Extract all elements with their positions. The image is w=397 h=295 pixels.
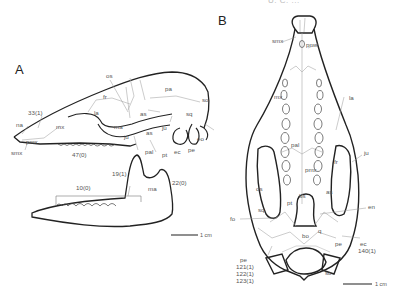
- label-B-sq: sq: [258, 207, 265, 213]
- character-10-bracket: [56, 186, 141, 206]
- label-A-na: na: [16, 122, 23, 128]
- label-B-bo: bo: [302, 233, 309, 239]
- lateral-skull-outline: [14, 72, 209, 146]
- label-A-smx: smx: [11, 150, 22, 156]
- skull-figure: U. C. ...: [0, 0, 397, 295]
- label-A-ju-small: ju: [162, 125, 167, 131]
- panel-label-B: B: [218, 14, 227, 27]
- label-B-so: so: [325, 270, 332, 276]
- skull-drawings: [0, 0, 397, 295]
- label-B-mx: mx: [274, 94, 282, 100]
- label-B-pal: pal: [291, 142, 299, 148]
- char-47: 47(0): [72, 152, 86, 158]
- label-B-sn: pmx: [305, 167, 317, 173]
- label-A-ju: ju: [124, 134, 129, 140]
- label-A-as2: as: [146, 130, 153, 136]
- label-B-pt: pt: [287, 200, 292, 206]
- char-33: 33(1): [28, 110, 42, 116]
- char-19: 19(1): [112, 171, 126, 177]
- label-A-os: os: [106, 73, 113, 79]
- label-B-pmx: pmx: [306, 42, 318, 48]
- label-B-fr: fr: [334, 159, 338, 165]
- label-B-fo: fo: [230, 216, 235, 222]
- char-22: 22(0): [172, 180, 186, 186]
- label-B-en: en: [368, 204, 375, 210]
- label-A-pmx: pmx: [26, 139, 38, 145]
- scale-label-A: 1 cm: [200, 232, 212, 238]
- char-10: 10(0): [76, 185, 90, 191]
- label-A-pe: pe: [188, 147, 195, 153]
- label-B-as: as: [326, 189, 333, 195]
- label-B-os: os: [256, 186, 263, 192]
- label-A-ma-mandible: ma: [148, 186, 157, 192]
- label-A-eo: eo: [197, 136, 204, 142]
- label-A-so: so: [202, 97, 209, 103]
- label-A-ma: ma: [114, 124, 123, 130]
- label-A-pal: pal: [145, 149, 153, 155]
- label-B-bs: bs: [299, 193, 306, 199]
- label-A-fr: fr: [103, 94, 107, 100]
- panel-label-A: A: [15, 63, 24, 76]
- label-A-pt: pt: [162, 152, 167, 158]
- label-A-la: la: [94, 110, 99, 116]
- label-A-sq: sq: [186, 111, 193, 117]
- label-A-ec: ec: [174, 149, 181, 155]
- char-140: 140(1): [358, 248, 376, 254]
- label-B-smx: smx: [272, 38, 283, 44]
- char-123: 123(1): [236, 278, 254, 284]
- label-B-la: la: [349, 95, 354, 101]
- label-B-q: q: [318, 228, 321, 234]
- label-A-mx: mx: [56, 124, 64, 130]
- scale-label-B: 1 cm: [375, 281, 387, 287]
- label-A-pa: pa: [165, 86, 172, 92]
- label-A-as: as: [140, 111, 147, 117]
- label-B-pe-right: pe: [335, 241, 342, 247]
- leader-lines-B: [240, 37, 366, 255]
- label-B-ju: ju: [364, 150, 369, 156]
